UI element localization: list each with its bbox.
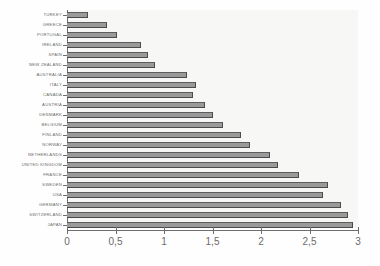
x-tick-mark [358, 227, 359, 234]
category-label: NETHERLANDS [28, 153, 62, 157]
x-tick-mark [67, 227, 68, 234]
bar [67, 142, 250, 148]
category-label: BELGIUM [41, 123, 62, 127]
bar [67, 72, 187, 78]
category-label: FINLAND [42, 133, 62, 137]
category-label: GERMANY [39, 203, 62, 207]
category-label: SWITZERLAND [29, 213, 62, 217]
x-tick-label: 2,5 [295, 237, 325, 247]
x-tick-label: 1 [149, 237, 179, 247]
bar [67, 52, 148, 58]
bar [67, 12, 88, 18]
bar [67, 62, 155, 68]
bar [67, 172, 299, 178]
y-tick-mark [63, 55, 67, 56]
category-label: SPAIN [48, 53, 62, 57]
bar [67, 122, 223, 128]
bar [67, 102, 205, 108]
bar [67, 32, 117, 38]
bar [67, 22, 107, 28]
x-tick-mark [164, 227, 165, 234]
bar [67, 182, 328, 188]
category-label: UNITED KINGDOM [22, 163, 62, 167]
bar [67, 152, 270, 158]
category-label: USA [53, 193, 62, 197]
y-tick-mark [63, 85, 67, 86]
bar [67, 112, 213, 118]
bar [67, 162, 278, 168]
y-tick-mark [63, 45, 67, 46]
x-tick-mark [213, 227, 214, 234]
x-tick-label: 1,5 [198, 237, 228, 247]
bar [67, 192, 323, 198]
category-label: PORTUGAL [37, 33, 62, 37]
y-tick-mark [63, 105, 67, 106]
bar [67, 202, 341, 208]
category-label: GREECE [43, 23, 62, 27]
bar [67, 212, 348, 218]
y-tick-mark [63, 165, 67, 166]
category-label: FRANCE [43, 173, 62, 177]
y-tick-mark [63, 25, 67, 26]
y-tick-mark [63, 215, 67, 216]
y-tick-mark [63, 95, 67, 96]
category-label: CANADA [43, 93, 62, 97]
bar-chart: TURKEYGREECEPORTUGALIRELANDSPAINNEW ZEAL… [0, 0, 380, 266]
bar [67, 132, 241, 138]
y-tick-mark [63, 145, 67, 146]
category-label: DENMARK [39, 113, 62, 117]
y-tick-mark [63, 35, 67, 36]
category-label: AUSTRIA [42, 103, 62, 107]
y-tick-mark [63, 185, 67, 186]
x-tick-label: 3 [343, 237, 373, 247]
category-label: ITALY [50, 83, 62, 87]
y-tick-mark [63, 195, 67, 196]
y-tick-mark [63, 225, 67, 226]
y-tick-mark [63, 125, 67, 126]
y-tick-mark [63, 115, 67, 116]
x-tick-mark [261, 227, 262, 234]
category-label: NEW ZEALAND [29, 63, 62, 67]
y-tick-mark [63, 15, 67, 16]
y-tick-mark [63, 135, 67, 136]
category-label: TURKEY [44, 13, 63, 17]
x-tick-label: 2 [246, 237, 276, 247]
x-tick-label: 0 [52, 237, 82, 247]
y-tick-mark [63, 205, 67, 206]
y-tick-mark [63, 175, 67, 176]
bar [67, 42, 141, 48]
y-tick-mark [63, 155, 67, 156]
category-label: IRELAND [42, 43, 62, 47]
category-label: JAPAN [48, 223, 62, 227]
bar [67, 82, 196, 88]
category-label: AUSTRALIA [36, 73, 62, 77]
x-tick-mark [310, 227, 311, 234]
x-tick-label: 0,5 [101, 237, 131, 247]
category-label: SWEDEN [42, 183, 62, 187]
x-tick-mark [116, 227, 117, 234]
y-tick-mark [63, 75, 67, 76]
bar [67, 92, 193, 98]
y-tick-mark [63, 65, 67, 66]
category-label: NORWAY [42, 143, 62, 147]
